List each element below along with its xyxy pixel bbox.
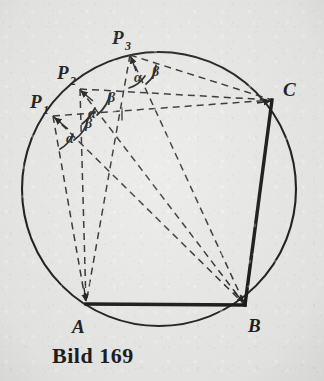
segment-bc bbox=[245, 100, 272, 305]
label-beta-p3: β bbox=[151, 64, 160, 79]
label-p2-base: P bbox=[56, 62, 69, 83]
label-p3-base: P bbox=[111, 27, 124, 48]
label-a: A bbox=[71, 316, 85, 337]
direction-arrowheads bbox=[55, 57, 270, 302]
label-p1-subscript: 1 bbox=[43, 103, 49, 117]
label-beta-p2: β bbox=[107, 90, 116, 105]
solid-sides bbox=[86, 100, 272, 305]
arrow-to-a bbox=[84, 288, 86, 301]
geometry-figure: P 1 P 2 P 3 A B C α β α β α β bbox=[0, 0, 324, 381]
label-alpha-p2: α bbox=[88, 106, 96, 121]
rays-from-p2 bbox=[80, 89, 272, 305]
figure-caption: Bild 169 bbox=[52, 343, 134, 369]
segment-ab bbox=[86, 304, 245, 305]
label-c: C bbox=[283, 79, 296, 100]
segment-p1-c bbox=[53, 100, 272, 116]
arrow-to-p1 bbox=[55, 118, 68, 129]
point-labels: P 1 P 2 P 3 A B C bbox=[29, 27, 296, 337]
segment-p3-b bbox=[130, 55, 245, 305]
label-alpha-p1: α bbox=[66, 131, 74, 146]
segment-p1-b bbox=[53, 116, 245, 305]
label-b: B bbox=[247, 315, 261, 336]
label-p2-subscript: 2 bbox=[69, 74, 76, 88]
label-p1-base: P bbox=[29, 91, 42, 112]
arrow-to-p3 bbox=[131, 57, 136, 71]
label-alpha-p3: α bbox=[134, 70, 142, 85]
label-p3-subscript: 3 bbox=[124, 39, 131, 53]
figure-page: P 1 P 2 P 3 A B C α β α β α β Bild 169 bbox=[0, 0, 324, 381]
arrow-to-p2 bbox=[81, 91, 93, 101]
circumcircle bbox=[22, 52, 296, 326]
